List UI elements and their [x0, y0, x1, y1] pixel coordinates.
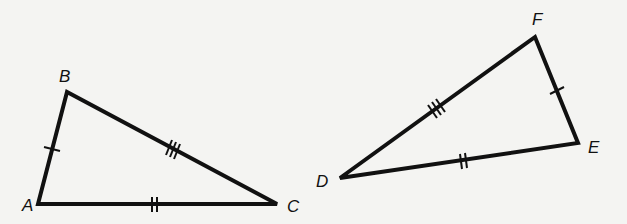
vertex-label-b: B	[59, 67, 70, 86]
triangle-abc-outline	[38, 92, 277, 204]
triangle-abc: A B C	[21, 67, 300, 216]
vertex-label-e: E	[588, 138, 600, 157]
tick-mark-bc-triple	[166, 140, 180, 159]
triangles-figure: A B C D E F	[0, 0, 627, 224]
vertex-label-f: F	[532, 10, 544, 29]
vertex-label-c: C	[287, 197, 300, 216]
triangle-def-outline	[340, 37, 578, 178]
vertex-label-d: D	[316, 172, 328, 191]
triangle-def: D E F	[316, 10, 600, 191]
diagram-canvas: A B C D E F	[0, 0, 627, 224]
vertex-label-a: A	[21, 196, 33, 215]
